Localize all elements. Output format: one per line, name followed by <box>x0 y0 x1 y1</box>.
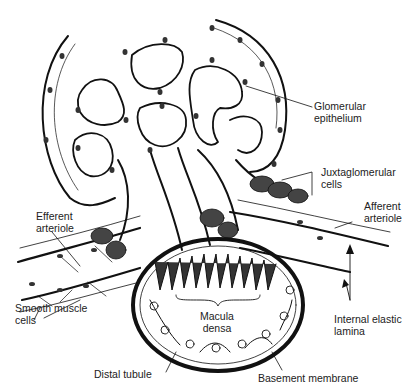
label-internal-elastic-lamina: Internal elastic lamina <box>334 313 402 337</box>
label-macula-densa: Macula densa <box>200 310 234 334</box>
label-juxtaglomerular-cells: Juxtaglomerular cells <box>321 166 396 190</box>
label-afferent-arteriole: Afferent arteriole <box>364 200 402 224</box>
juxtaglomerular-cells <box>91 176 308 259</box>
label-basement-membrane: Basement membrane <box>258 372 358 384</box>
label-distal-tubule: Distal tubule <box>94 368 152 380</box>
macula-densa-cells <box>155 254 276 290</box>
capillary-loop <box>131 44 183 89</box>
bowmans-capsule <box>43 36 115 205</box>
label-glomerular-epithelium: Glomerular epithelium <box>314 100 366 124</box>
label-smooth-muscle-cells: Smooth muscle cells <box>15 302 87 326</box>
label-efferent-arteriole: Efferent arteriole <box>36 210 74 234</box>
